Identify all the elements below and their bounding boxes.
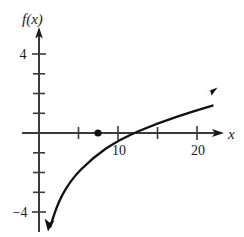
graph-canvas: f(x) x 4 −4 10 20	[0, 0, 244, 237]
y-tick-label-minus-4: −4	[13, 205, 28, 220]
function-curve-path	[51, 106, 213, 227]
function-graph-figure: f(x) x 4 −4 10 20	[0, 0, 244, 237]
x-tick-label-20: 20	[191, 143, 205, 158]
axes-group	[22, 27, 224, 232]
y-axis-label: f(x)	[22, 11, 43, 28]
y-tick-label-4: 4	[20, 47, 27, 62]
function-curve-group	[45, 88, 218, 232]
x-axis-label: x	[227, 126, 235, 142]
x-intercept-point-marker	[94, 129, 101, 136]
curve-end-arrowhead-icon	[205, 88, 217, 96]
x-tick-label-10: 10	[112, 143, 126, 158]
